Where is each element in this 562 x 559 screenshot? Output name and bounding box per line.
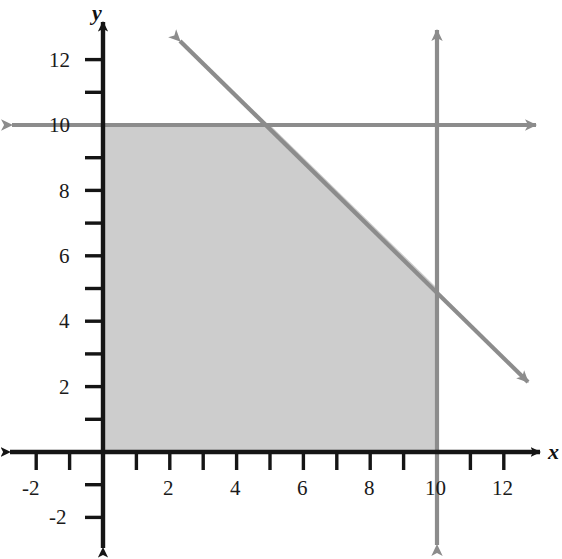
y-tick-label-6: 6 xyxy=(59,246,70,267)
x-tick-label-8: 8 xyxy=(364,478,375,499)
x-tick-label-12: 12 xyxy=(492,478,513,499)
y-tick-label-4: 4 xyxy=(59,311,70,332)
x-axis-name-label: x xyxy=(548,441,559,463)
x-axis-ticks xyxy=(36,452,504,470)
x-tick-label-2: 2 xyxy=(163,478,174,499)
y-tick-label-2: 2 xyxy=(59,377,70,398)
y-tick-label-10: 10 xyxy=(49,115,70,136)
x-tick-label-6: 6 xyxy=(297,478,308,499)
y-axis-name-label: y xyxy=(92,2,102,24)
y-tick-label-12: 12 xyxy=(49,50,70,71)
x-tick-label--2: -2 xyxy=(22,478,40,499)
graph-canvas: -2 2 4 6 8 10 12 -2 2 4 6 8 10 12 y x xyxy=(0,0,562,559)
coordinate-plane-svg xyxy=(0,0,562,559)
x-tick-label-4: 4 xyxy=(230,478,241,499)
y-tick-label--2: -2 xyxy=(49,507,67,528)
x-tick-label-10: 10 xyxy=(425,478,446,499)
y-axis-ticks xyxy=(85,60,103,518)
y-tick-label-8: 8 xyxy=(59,181,70,202)
feasible-region-shading xyxy=(103,125,437,452)
